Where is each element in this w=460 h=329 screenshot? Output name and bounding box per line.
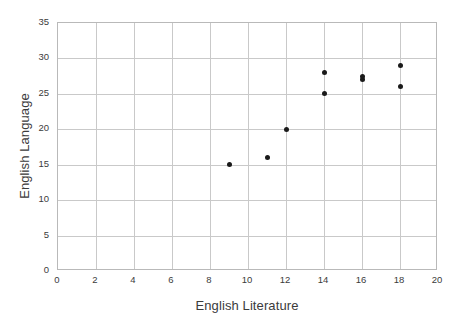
y-tick-label: 30 <box>9 52 49 62</box>
x-tick-label: 20 <box>417 274 457 286</box>
data-point <box>398 63 403 68</box>
data-point <box>360 74 365 79</box>
x-tick-label: 4 <box>113 274 153 286</box>
scatter-chart: English Language 05101520253035 02468101… <box>0 0 460 329</box>
data-point <box>227 162 232 167</box>
x-tick-label: 18 <box>379 274 419 286</box>
x-tick-label: 2 <box>75 274 115 286</box>
data-point <box>265 155 270 160</box>
x-axis-tick-labels: 02468101214161820 <box>57 274 437 290</box>
x-tick-label: 14 <box>303 274 343 286</box>
data-point <box>398 84 403 89</box>
y-tick-label: 35 <box>9 17 49 27</box>
x-axis-title: English Literature <box>57 298 437 314</box>
x-tick-label: 12 <box>265 274 305 286</box>
x-tick-label: 8 <box>189 274 229 286</box>
y-tick-label: 10 <box>9 194 49 204</box>
data-points-layer <box>58 23 436 269</box>
x-tick-label: 10 <box>227 274 267 286</box>
y-tick-label: 25 <box>9 88 49 98</box>
plot-area <box>57 22 437 270</box>
y-tick-label: 20 <box>9 123 49 133</box>
y-axis-tick-labels: 05101520253035 <box>0 22 49 270</box>
data-point <box>322 70 327 75</box>
data-point <box>284 127 289 132</box>
x-tick-label: 0 <box>37 274 77 286</box>
x-tick-label: 16 <box>341 274 381 286</box>
y-tick-label: 15 <box>9 159 49 169</box>
y-tick-label: 5 <box>9 230 49 240</box>
data-point <box>322 91 327 96</box>
x-tick-label: 6 <box>151 274 191 286</box>
